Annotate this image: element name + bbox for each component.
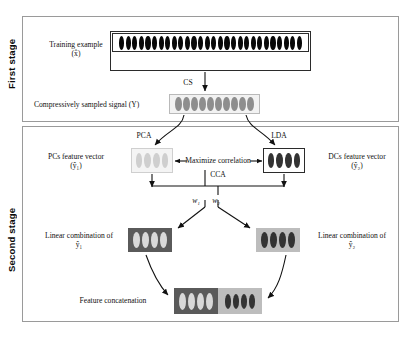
signal-cell [270, 232, 277, 248]
signal-cell [294, 153, 301, 168]
signal-cell [206, 293, 213, 310]
signal-cell [144, 153, 151, 168]
pcs-feature-vector-box [131, 148, 173, 173]
pcs-feature-vector-label: PCs feature vector (ŷ₁) [28, 152, 124, 171]
signal-cell [264, 36, 269, 50]
signal-cell [178, 36, 183, 50]
signal-cell [261, 232, 268, 248]
signal-cell [279, 232, 286, 248]
signal-cell [231, 36, 236, 50]
signal-cell [225, 294, 231, 309]
signal-cell [233, 294, 239, 309]
concat-left-cells [174, 288, 218, 314]
cs-signal-label: Compressively sampled signal (Y) [34, 100, 174, 109]
signal-cell [288, 232, 295, 248]
signal-cell [136, 153, 143, 168]
weight1-label: w₁ [189, 196, 203, 205]
signal-cell [251, 36, 256, 50]
dcs-feature-vector-box [263, 148, 305, 173]
dcs-label-line1: DCs feature vector [328, 152, 385, 161]
signal-cell [249, 294, 255, 309]
linear-right-cells [256, 228, 300, 252]
maximize-correlation-label: Maximize correlation [184, 156, 252, 165]
signal-cell [188, 293, 195, 310]
signal-cell [183, 97, 189, 111]
training-example-label: Training example (x̂) [34, 40, 118, 59]
pcs-label-line2: (ŷ₁) [70, 161, 82, 170]
feature-concatenation-box [174, 288, 262, 314]
signal-cell [205, 36, 210, 50]
cs-signal-cells [170, 95, 259, 113]
linear-left-line2: ŷ₁ [76, 240, 82, 249]
signal-cell [151, 232, 158, 248]
signal-cell [247, 97, 253, 111]
signal-cell [238, 36, 243, 50]
pcs-label-line1: PCs feature vector [48, 152, 104, 161]
signal-cell [172, 36, 177, 50]
concat-right-cells [218, 288, 262, 314]
signal-cell [270, 36, 275, 50]
signal-cell [276, 153, 283, 168]
linear-right-line2: ŷ₂ [349, 240, 355, 249]
signal-cell [241, 294, 247, 309]
signal-cell [198, 36, 203, 50]
training-example-signal-strip [112, 33, 309, 52]
pcs-feature-cells [132, 149, 172, 172]
linear-combination-left-box [128, 228, 172, 252]
signal-cell [223, 97, 229, 111]
signal-cell [162, 153, 169, 168]
linear-left-cells [128, 228, 172, 252]
signal-cell [165, 36, 170, 50]
linear-combination-left-label: Linear combination of ŷ₁ [32, 231, 126, 250]
signal-cell [133, 232, 140, 248]
signal-cell [197, 293, 204, 310]
linear-left-line1: Linear combination of [45, 231, 113, 240]
signal-cell [244, 36, 249, 50]
linear-combination-right-box [256, 228, 300, 252]
signal-cell [215, 97, 221, 111]
signal-cell [159, 36, 164, 50]
signal-cell [145, 36, 150, 50]
linear-right-line1: Linear combination of [318, 231, 386, 240]
signal-cell [191, 36, 196, 50]
signal-cell [297, 36, 302, 50]
signal-cell [239, 97, 245, 111]
signal-cell [179, 293, 186, 310]
stage-label-second: Second stage [6, 180, 17, 300]
signal-cell [152, 36, 157, 50]
signal-cell [285, 153, 292, 168]
signal-cell [139, 36, 144, 50]
signal-cell [207, 97, 213, 111]
signal-cell [191, 97, 197, 111]
signal-cell [185, 36, 190, 50]
signal-cell [231, 97, 237, 111]
linear-combination-right-label: Linear combination of ŷ₂ [304, 231, 400, 250]
concat-left-half [174, 288, 218, 314]
cs-signal-box [169, 94, 260, 114]
feature-concatenation-label: Feature concatenation [58, 296, 168, 305]
training-example-label-line2: (x̂) [72, 49, 81, 58]
dcs-feature-vector-label: DCs feature vector (ŷ₂) [310, 152, 404, 171]
training-example-cells [113, 34, 308, 51]
signal-cell [268, 153, 275, 168]
signal-cell [199, 97, 205, 111]
weight2-label: w₂ [209, 196, 223, 205]
signal-cell [126, 36, 131, 50]
lda-label: LDA [268, 131, 290, 140]
figure-canvas: First stage Second stage Training exampl… [0, 0, 404, 339]
signal-cell [277, 36, 282, 50]
signal-cell [218, 36, 223, 50]
signal-cell [132, 36, 137, 50]
signal-cell [153, 153, 160, 168]
stage-label-first: First stage [6, 18, 17, 110]
signal-cell [119, 36, 124, 50]
concat-right-half [218, 288, 262, 314]
pca-label: PCA [133, 131, 155, 140]
dcs-label-line2: (ŷ₂) [351, 161, 363, 170]
signal-cell [211, 36, 216, 50]
cca-label: CCA [206, 170, 230, 179]
signal-cell [160, 232, 167, 248]
signal-cell [142, 232, 149, 248]
cs-label: CS [178, 78, 198, 87]
signal-cell [257, 36, 262, 50]
